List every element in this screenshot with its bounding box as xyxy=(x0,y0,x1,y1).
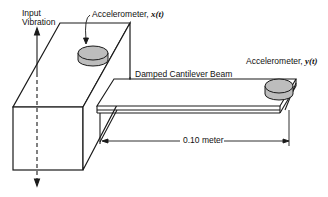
cantilever-diagram xyxy=(0,0,328,197)
accel-y-prefix: Accelerometer, xyxy=(246,56,305,66)
input-vibration-label: Input Vibration xyxy=(22,9,55,28)
accelerometer-x-icon xyxy=(78,46,108,66)
dimension-label: 0.10 meter xyxy=(183,136,224,145)
accelerometer-x-label: Accelerometer, x(t) xyxy=(92,10,164,20)
input-vibration-line2: Vibration xyxy=(22,18,55,27)
accel-x-prefix: Accelerometer, xyxy=(92,9,151,19)
accel-x-variable: x(t) xyxy=(151,9,164,19)
accelerometer-y-label: Accelerometer, y(t) xyxy=(246,57,318,67)
accel-y-variable: y(t) xyxy=(305,56,318,66)
accelerometer-y-icon xyxy=(265,79,293,100)
beam-label: Damped Cantilever Beam xyxy=(135,70,232,79)
